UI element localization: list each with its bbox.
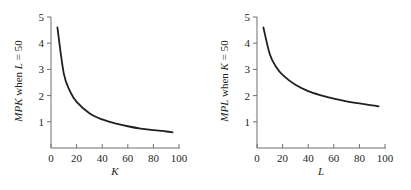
- y-tick-label: 1: [245, 116, 251, 128]
- x-tick-label: 60: [328, 152, 340, 164]
- mpk-plot-area: 12345020406080100: [0, 0, 205, 190]
- y-tick-label: 3: [39, 63, 45, 75]
- mpl-curve: [263, 27, 378, 106]
- x-tick-label: 20: [277, 152, 289, 164]
- y-tick-label: 2: [245, 90, 251, 102]
- y-tick-label: 4: [245, 37, 251, 49]
- x-tick-label: 80: [354, 152, 366, 164]
- mpl-x-axis-label: L: [301, 165, 341, 177]
- x-tick-label: 100: [171, 152, 188, 164]
- y-tick-label: 3: [245, 63, 251, 75]
- y-tick-label: 2: [39, 90, 45, 102]
- x-tick-label: 0: [48, 152, 54, 164]
- x-tick-label: 40: [303, 152, 315, 164]
- mpl-plot-area: 12345020406080100: [206, 0, 411, 190]
- mpl-chart: MPL when K = 50 12345020406080100 L: [206, 0, 411, 190]
- x-tick-label: 60: [122, 152, 134, 164]
- y-tick-label: 5: [245, 11, 251, 23]
- y-tick-label: 4: [39, 37, 45, 49]
- mpk-curve: [57, 27, 172, 132]
- x-tick-label: 0: [254, 152, 260, 164]
- mpk-x-axis-label: K: [95, 165, 135, 177]
- mpk-chart: MPK when L = 50 12345020406080100 K: [0, 0, 205, 190]
- x-tick-label: 20: [71, 152, 83, 164]
- x-tick-label: 100: [377, 152, 394, 164]
- y-tick-label: 5: [39, 11, 45, 23]
- y-tick-label: 1: [39, 116, 45, 128]
- x-tick-label: 80: [148, 152, 160, 164]
- x-tick-label: 40: [97, 152, 109, 164]
